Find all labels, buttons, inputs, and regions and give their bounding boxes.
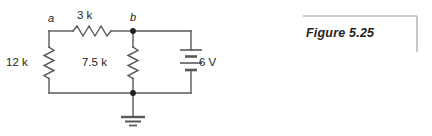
- junction-dot-ground-node: [130, 90, 136, 96]
- resistor-12k-symbol: [44, 47, 54, 79]
- node-b-label: b: [130, 12, 136, 23]
- voltage-source-6v-label: 6 V: [199, 57, 216, 69]
- node-a-label: a: [48, 13, 54, 24]
- resistor-12k-label: 12 k: [6, 57, 28, 69]
- figure-panel: 12 k 3 k 7.5 k 6 V a b Figure 5.25: [0, 0, 432, 136]
- resistor-3k-symbol: [73, 26, 111, 36]
- resistor-7p5k-symbol: [128, 47, 138, 79]
- figure-caption: Figure 5.25: [306, 26, 374, 40]
- ground-symbol: [121, 117, 145, 126]
- junction-dot-node-b: [130, 28, 136, 34]
- resistor-7p5k-label: 7.5 k: [82, 57, 107, 69]
- resistor-3k-label: 3 k: [77, 10, 92, 22]
